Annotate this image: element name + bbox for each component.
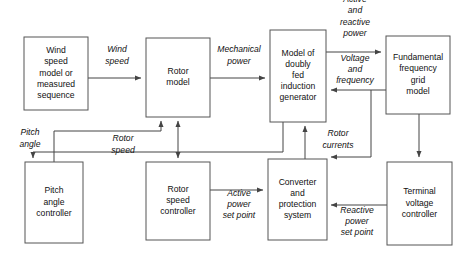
pitch-angle-signal-label: Pitchangle	[19, 128, 40, 149]
fundamental-frequency-grid-model-block[interactable]: Fundamentalfrequencygridmodel	[386, 36, 450, 114]
active-and-reactive-power-signal-label-line: reactive	[340, 17, 370, 27]
converter-and-protection-system-block[interactable]: Converterandprotectionsystem	[268, 159, 327, 240]
rotor-currents-signal-label-line: currents	[322, 140, 354, 150]
active-and-reactive-power-signal-label-line: Active	[342, 0, 367, 4]
terminal-voltage-controller-block[interactable]: Terminalvoltagecontroller	[387, 162, 452, 245]
rotor-model-block[interactable]: Rotormodel	[146, 38, 210, 117]
rotor-speed-signal-label: Rotorspeed	[111, 134, 135, 155]
fundamental-frequency-grid-model-block-label-line: frequency	[399, 64, 437, 74]
reactive-power-set-point-signal-label-line: power	[344, 216, 370, 226]
pitch-angle-controller-block-label-line: controller	[36, 208, 71, 218]
doubly-fed-induction-generator-block-label-line: Model of	[282, 48, 316, 58]
voltage-and-frequency-signal-label-line: Voltage	[341, 53, 370, 63]
wind-speed-model-block-label-line: sequence	[37, 90, 74, 100]
fundamental-frequency-grid-model-block-label-line: Fundamental	[393, 52, 443, 62]
wind-speed-model-block[interactable]: Windspeedmodel ormeasuredsequence	[24, 37, 88, 110]
doubly-fed-induction-generator-block-label-line: fed	[292, 70, 304, 80]
pitch-angle-controller-block-label-line: Pitch	[44, 186, 63, 196]
terminal-voltage-controller-block-label-line: controller	[402, 209, 437, 219]
rotor-speed-signal-label-line: Rotor	[112, 134, 134, 144]
active-and-reactive-power-signal-label-line: and	[348, 6, 363, 16]
converter-and-protection-system-block-label: Converterandprotectionsystem	[279, 177, 317, 221]
converter-and-protection-system-block-label-line: protection	[279, 199, 317, 209]
mechanical-power-signal-label-line: power	[226, 56, 252, 66]
doubly-fed-induction-generator-block-label-line: generator	[280, 93, 317, 103]
fundamental-frequency-grid-model-block-label-line: grid	[411, 75, 426, 85]
converter-and-protection-system-block-label-line: Converter	[279, 177, 317, 187]
rotor-currents-signal-label-line: Rotor	[327, 129, 349, 139]
active-power-set-point-signal-label-line: power	[226, 199, 252, 209]
active-and-reactive-power-signal-label-line: power	[342, 28, 368, 38]
rotor-speed-controller-block-label-line: controller	[160, 206, 195, 216]
terminal-voltage-controller-block-label: Terminalvoltagecontroller	[402, 187, 437, 219]
rotor-model-block-label-line: Rotor	[167, 66, 188, 76]
fundamental-frequency-grid-model-block-label-line: model	[406, 86, 429, 96]
active-power-set-point-signal-label-line: Active	[226, 188, 251, 198]
rotor-model-block-label: Rotormodel	[166, 66, 189, 87]
active-power-set-point-signal-label-line: set point	[223, 210, 256, 220]
reactive-power-set-point-signal-label-line: Reactive	[340, 205, 374, 215]
rotor-model-block-label-line: model	[166, 77, 189, 87]
wind-speed-signal-label-line: Wind	[107, 45, 127, 55]
pitch-angle-signal-label-line: Pitch	[20, 128, 39, 138]
reactive-power-set-point-signal-label-line: set point	[341, 227, 374, 237]
wind-speed-signal-label: Windspeed	[105, 45, 129, 66]
converter-and-protection-system-block-label-line: system	[284, 211, 311, 221]
wind-speed-model-block-label-line: model or	[39, 68, 73, 78]
rotor-speed-signal-label-line: speed	[111, 145, 135, 155]
voltage-and-frequency-signal-label-line: frequency	[336, 75, 374, 85]
wind-speed-model-block-label-line: measured	[37, 79, 75, 89]
terminal-voltage-controller-block-label-line: Terminal	[403, 187, 436, 197]
converter-and-protection-system-block-label-line: and	[290, 188, 305, 198]
rotor-speed-controller-block[interactable]: Rotorspeedcontroller	[146, 162, 210, 240]
doubly-fed-induction-generator-block[interactable]: Model ofdoublyfedinductiongenerator	[270, 30, 326, 122]
mechanical-power-signal-label-line: Mechanical	[217, 45, 262, 55]
wind-turbine-block-diagram: Windspeedmodel ormeasuredsequenceRotormo…	[0, 0, 471, 269]
pitch-angle-controller-block-label-line: angle	[43, 197, 64, 207]
pitch-angle-controller-block[interactable]: Pitchanglecontroller	[25, 162, 83, 243]
terminal-voltage-controller-block-label-line: voltage	[406, 198, 434, 208]
voltage-and-frequency-signal-label-line: and	[348, 64, 363, 74]
pitch-angle-signal-label-line: angle	[19, 139, 40, 149]
doubly-fed-induction-generator-block-label-line: induction	[281, 81, 316, 91]
rotor-speed-controller-block-label-line: Rotor	[167, 184, 188, 194]
wind-speed-model-block-label-line: Wind	[46, 45, 66, 55]
wind-speed-model-block-label-line: speed	[44, 57, 68, 67]
wind-speed-signal-label-line: speed	[105, 56, 129, 66]
doubly-fed-induction-generator-block-label-line: doubly	[285, 59, 311, 69]
rotor-speed-controller-block-label-line: speed	[166, 195, 190, 205]
